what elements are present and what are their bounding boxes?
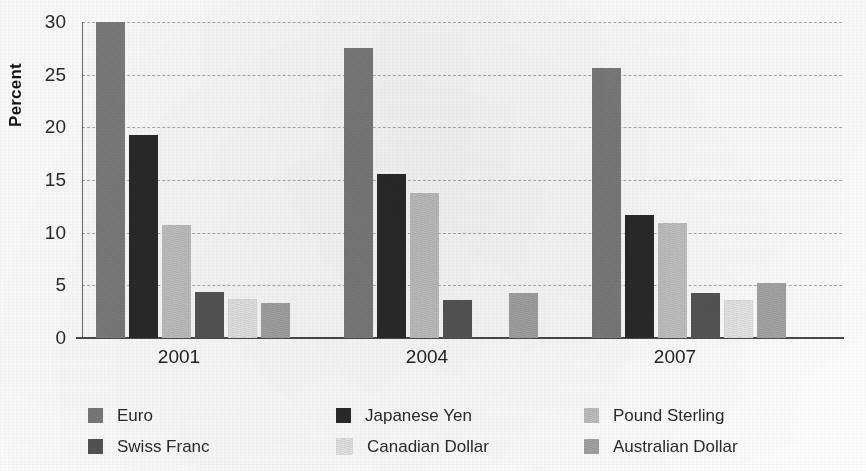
legend-swatch-icon xyxy=(584,439,599,454)
bar-pound-sterling-2004 xyxy=(410,193,439,338)
bar-euro-2001 xyxy=(96,22,125,338)
bar-swiss-franc-2007 xyxy=(691,293,720,338)
legend-item-pound-sterling[interactable]: Pound Sterling xyxy=(584,406,832,426)
chart-legend: EuroJapanese YenPound SterlingSwiss Fran… xyxy=(88,400,848,462)
legend-swatch-icon xyxy=(584,408,599,423)
bar-group-2004 xyxy=(344,22,542,338)
bar-euro-2007 xyxy=(592,68,621,338)
legend-label: Euro xyxy=(117,406,153,426)
y-axis-tick-labels: 051015202530 xyxy=(14,0,66,471)
legend-label: Japanese Yen xyxy=(365,406,472,426)
y-tick-label-30: 30 xyxy=(14,11,66,33)
legend-item-japanese-yen[interactable]: Japanese Yen xyxy=(336,406,584,426)
legend-label: Pound Sterling xyxy=(613,406,725,426)
bar-japanese-yen-2001 xyxy=(129,135,158,338)
legend-item-euro[interactable]: Euro xyxy=(88,406,336,426)
bar-japanese-yen-2007 xyxy=(625,215,654,338)
bar-pound-sterling-2001 xyxy=(162,225,191,338)
y-tick-label-15: 15 xyxy=(14,169,66,191)
legend-swatch-icon xyxy=(88,408,103,423)
bar-australian-dollar-2007 xyxy=(757,283,786,338)
x-tick-label-2007: 2007 xyxy=(654,346,696,368)
plot-area: 200120042007 xyxy=(82,22,842,338)
y-tick-label-25: 25 xyxy=(14,64,66,86)
y-tick-label-5: 5 xyxy=(14,274,66,296)
legend-swatch-icon xyxy=(336,408,351,423)
x-tick-label-2001: 2001 xyxy=(158,346,200,368)
bar-euro-2004 xyxy=(344,48,373,338)
bar-swiss-franc-2001 xyxy=(195,292,224,338)
y-tick-label-10: 10 xyxy=(14,222,66,244)
bar-pound-sterling-2007 xyxy=(658,223,687,338)
legend-swatch-icon xyxy=(88,439,103,454)
bar-swiss-franc-2004 xyxy=(443,300,472,338)
legend-item-swiss-franc[interactable]: Swiss Franc xyxy=(88,437,336,457)
bar-australian-dollar-2001 xyxy=(261,303,290,338)
y-tick-label-20: 20 xyxy=(14,116,66,138)
bar-canadian-dollar-2001 xyxy=(228,299,257,338)
bar-australian-dollar-2004 xyxy=(509,293,538,338)
bar-canadian-dollar-2007 xyxy=(724,300,753,338)
legend-swatch-icon xyxy=(336,438,353,455)
legend-item-australian-dollar[interactable]: Australian Dollar xyxy=(584,437,832,457)
x-tick-label-2004: 2004 xyxy=(406,346,448,368)
bar-group-2007 xyxy=(592,22,790,338)
legend-label: Swiss Franc xyxy=(117,437,210,457)
legend-label: Canadian Dollar xyxy=(367,437,489,457)
legend-item-canadian-dollar[interactable]: Canadian Dollar xyxy=(336,437,584,457)
legend-label: Australian Dollar xyxy=(613,437,738,457)
bar-group-2001 xyxy=(96,22,294,338)
bar-japanese-yen-2004 xyxy=(377,174,406,338)
y-tick-label-0: 0 xyxy=(14,327,66,349)
